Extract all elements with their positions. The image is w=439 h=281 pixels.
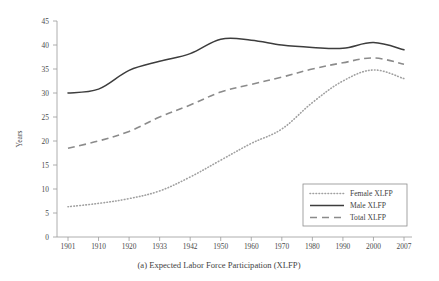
legend-items: Female XLFPMale XLFPTotal XLFP [310, 189, 393, 222]
x-tick-label: 1980 [305, 242, 320, 251]
y-axis-label: Years [15, 130, 24, 147]
x-tick-label: 1910 [91, 242, 106, 251]
y-tick-group: 051015202530354045 [42, 17, 57, 242]
legend-label: Female XLFP [350, 189, 393, 198]
x-tick-label: 1942 [183, 242, 198, 251]
x-tick-label: 1920 [122, 242, 137, 251]
figure-caption: (a) Expected Labor Force Participation (… [138, 260, 301, 270]
chart-canvas: 051015202530354045 190119101920193319421… [0, 0, 439, 281]
y-tick-label: 5 [45, 209, 49, 218]
figure-expected-labor-force-participation: 051015202530354045 190119101920193319421… [0, 0, 439, 281]
x-tick-label: 2000 [366, 242, 381, 251]
y-tick-label: 0 [45, 233, 49, 242]
x-tick-group: 1901191019201933194219501960197019801990… [61, 237, 412, 251]
y-tick-label: 30 [42, 89, 50, 98]
x-tick-label: 1990 [336, 242, 351, 251]
legend-label: Male XLFP [350, 201, 386, 210]
x-tick-label: 1901 [61, 242, 76, 251]
series-line-total-xlfp [68, 58, 404, 148]
y-tick-label: 20 [42, 137, 50, 146]
x-tick-label: 1970 [274, 242, 289, 251]
y-tick-label: 25 [42, 113, 50, 122]
y-tick-label: 45 [42, 17, 50, 26]
legend: Female XLFPMale XLFPTotal XLFP [303, 184, 407, 226]
y-tick-label: 10 [42, 185, 50, 194]
y-tick-label: 40 [42, 41, 50, 50]
x-tick-label: 1933 [152, 242, 167, 251]
x-tick-label: 1960 [244, 242, 259, 251]
series-group [68, 38, 404, 207]
x-tick-label: 2007 [397, 242, 412, 251]
x-tick-label: 1950 [213, 242, 228, 251]
series-line-male-xlfp [68, 38, 404, 93]
y-tick-label: 35 [42, 65, 50, 74]
line-chart: 051015202530354045 190119101920193319421… [0, 0, 439, 281]
y-tick-label: 15 [42, 161, 50, 170]
legend-label: Total XLFP [350, 213, 386, 222]
